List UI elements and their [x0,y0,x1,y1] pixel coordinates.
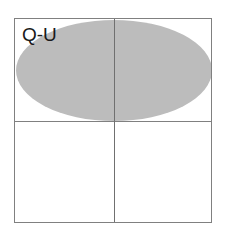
horizontal-divider-line [15,121,211,122]
figure-canvas: Q-U [0,0,226,241]
quadrant-frame: Q-U [14,18,212,223]
region-label: Q-U [22,25,57,44]
quadrant-frame-inner: Q-U [15,19,211,222]
vertical-divider-line [114,19,115,222]
